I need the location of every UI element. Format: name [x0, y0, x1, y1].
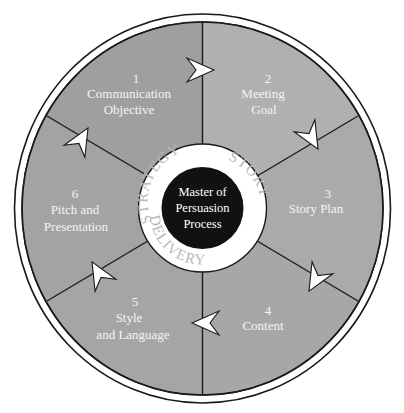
sector-3-number: 3 [325, 186, 332, 201]
sector-2-line-2: Goal [251, 102, 277, 117]
sector-5-number: 5 [132, 294, 139, 309]
sector-6-line-2: Presentation [44, 219, 109, 234]
sector-4-line-1: Content [242, 318, 284, 333]
hub-line-2: Persuasion [175, 201, 230, 215]
diagram-canvas: STRATEGY STORY DELIVERY Master of Persua… [0, 0, 404, 413]
hub-line-3: Process [183, 217, 221, 231]
sector-1-line-1: Communication [87, 86, 171, 101]
sector-1-number: 1 [133, 71, 140, 86]
sector-6-line-1: Pitch and [51, 202, 100, 217]
persuasion-process-diagram: STRATEGY STORY DELIVERY Master of Persua… [0, 0, 404, 413]
sector-2-number: 2 [265, 71, 272, 86]
sector-2-line-1: Meeting [241, 86, 285, 101]
sector-4-number: 4 [265, 303, 272, 318]
sector-3-line-1: Story Plan [289, 201, 344, 216]
sector-5-line-1: Style [116, 310, 143, 325]
sector-5-line-2: and Language [96, 327, 170, 342]
hub-line-1: Master of [178, 185, 227, 199]
sector-1-line-2: Objective [104, 102, 155, 117]
sector-6-number: 6 [72, 186, 79, 201]
